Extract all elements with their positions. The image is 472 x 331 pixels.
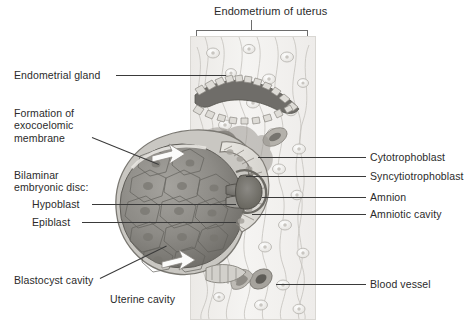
label-exocoelomic-line1: Formation of [14, 107, 74, 119]
label-exocoelomic-line2: exocoelomic [14, 119, 73, 131]
endometrium-stroma-art [191, 37, 315, 319]
embryology-diagram: Endometrium of uterus [0, 0, 472, 331]
endometrium-panel [190, 36, 316, 320]
label-epiblast: Epiblast [14, 216, 70, 228]
label-blood-vessel: Blood vessel [370, 278, 431, 290]
label-bilaminar-disc: Bilaminar embryonic disc: [14, 169, 114, 194]
leader-syncytiotrophoblast [246, 176, 366, 177]
leader-cytotrophoblast [258, 157, 366, 158]
label-syncytiotrophoblast: Syncytiotrophoblast [370, 170, 464, 182]
leader-hypoblast [92, 204, 236, 205]
label-amnion: Amnion [370, 191, 406, 203]
label-exocoelomic-membrane: Formation of exocoelomic membrane [14, 107, 96, 144]
leader-epiblast [82, 222, 236, 223]
label-bilaminar-line2: embryonic disc: [14, 181, 88, 193]
label-cytotrophoblast: Cytotrophoblast [370, 151, 445, 163]
leader-blastocyst-cavity [100, 246, 167, 279]
label-amniotic-cavity: Amniotic cavity [370, 208, 442, 220]
leader-exocoelomic-membrane [92, 137, 159, 165]
endometrium-bracket-stem [251, 20, 252, 30]
page-title: Endometrium of uterus [214, 5, 327, 17]
label-exocoelomic-line3: membrane [14, 132, 65, 144]
leader-amnion [262, 197, 366, 198]
label-bilaminar-line1: Bilaminar [14, 169, 59, 181]
leader-endometrial-gland [116, 75, 226, 76]
label-hypoblast: Hypoblast [14, 198, 80, 210]
label-blastocyst-cavity: Blastocyst cavity [14, 274, 93, 286]
label-endometrial-gland: Endometrial gland [14, 69, 100, 81]
leader-amniotic-cavity [252, 214, 366, 215]
label-uterine-cavity: Uterine cavity [110, 293, 175, 305]
leader-blood-vessel [276, 284, 366, 285]
